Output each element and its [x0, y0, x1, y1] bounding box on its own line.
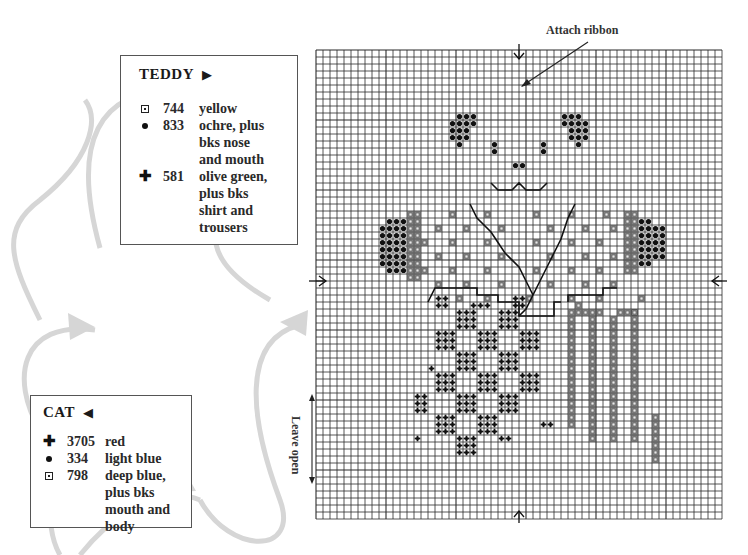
thread-code: 798 [67, 467, 88, 484]
thread-code: 581 [163, 168, 184, 185]
thread-description: ochre, plus bks nose and mouth [199, 117, 264, 168]
cross-symbol-icon: ✚ [43, 433, 55, 450]
play-left-icon: ◀ [83, 405, 94, 420]
dot-symbol-icon [139, 117, 151, 134]
thread-code: 3705 [67, 433, 95, 450]
cat-key-title: CAT◀ [43, 404, 94, 421]
boxed-dot-symbol-icon [43, 467, 55, 484]
attach-ribbon-label: Attach ribbon [546, 23, 618, 38]
thread-description: red [105, 433, 125, 450]
dot-symbol-icon [43, 450, 55, 467]
teddy-key-panel: TEDDY▶ 744yellow833ochre, plus bks nose … [120, 55, 298, 245]
cross-symbol-icon: ✚ [139, 168, 151, 185]
thread-description: yellow [199, 100, 237, 117]
cross-stitch-chart [300, 0, 748, 555]
thread-code: 334 [67, 450, 88, 467]
leave-open-label: Leave open [288, 416, 303, 474]
thread-description: light blue [105, 450, 161, 467]
thread-description: deep blue, plus bks mouth and body [105, 467, 170, 535]
thread-code: 744 [163, 100, 184, 117]
thread-code: 833 [163, 117, 184, 134]
boxed-dot-symbol-icon [139, 100, 151, 117]
play-right-icon: ▶ [202, 67, 213, 82]
cat-key-panel: CAT◀ ✚3705red334light blue798deep blue, … [30, 395, 192, 528]
teddy-key-title: TEDDY▶ [139, 66, 213, 83]
thread-description: olive green, plus bks shirt and trousers [199, 168, 267, 236]
